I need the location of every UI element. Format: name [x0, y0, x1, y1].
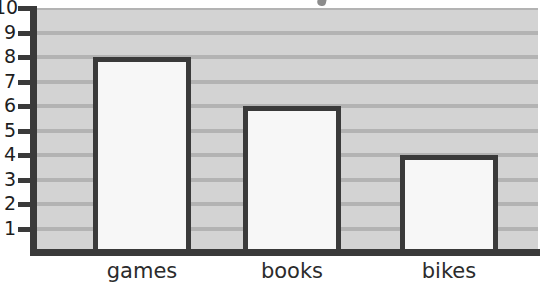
x-axis-category-label: games: [63, 258, 221, 284]
y-axis-tick-mark: [18, 55, 32, 60]
bar: [243, 106, 341, 253]
bar-chart: 12345678910 gamesbooksbikes: [0, 0, 557, 291]
bar: [400, 155, 498, 253]
y-axis-tick-mark: [18, 31, 32, 36]
y-axis-tick-mark: [18, 104, 32, 109]
y-axis-tick-label: 1: [0, 219, 16, 238]
y-axis-tick-label: 9: [0, 23, 16, 42]
y-axis-tick-label: 6: [0, 96, 16, 115]
y-axis-tick-mark: [18, 202, 32, 207]
y-axis-tick-label: 10: [0, 0, 16, 17]
y-axis-tick-label: 4: [0, 145, 16, 164]
y-axis-tick-label: 5: [0, 121, 16, 140]
gridline: [36, 31, 538, 35]
plot-area: [36, 8, 538, 253]
y-axis-tick-label: 2: [0, 194, 16, 213]
y-axis-tick-mark: [18, 80, 32, 85]
x-axis-category-label: books: [213, 258, 371, 284]
y-axis-tick-mark: [18, 153, 32, 158]
y-axis-tick-label: 8: [0, 47, 16, 66]
y-axis-tick-mark: [18, 178, 32, 183]
y-axis-tick-mark: [18, 227, 32, 232]
cropped-title-descender: [316, 0, 328, 6]
gridline: [36, 8, 538, 10]
y-axis-tick-label: 3: [0, 170, 16, 189]
y-axis-tick-mark: [18, 6, 32, 11]
bar: [93, 57, 191, 253]
x-axis-category-label: bikes: [370, 258, 528, 284]
y-axis-tick-mark: [18, 129, 32, 134]
y-axis-tick-label: 7: [0, 72, 16, 91]
x-axis-line: [30, 249, 540, 256]
